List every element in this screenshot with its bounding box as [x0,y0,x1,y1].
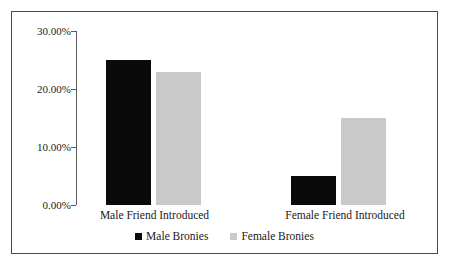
legend-swatch-black-icon [135,233,142,240]
chart-figure: 30.00% 20.00% 10.00% 0.00% Male Friend I… [11,11,438,254]
y-axis-line [76,31,77,205]
legend-label-female-bronies: Female Bronies [241,230,314,242]
bar-male-bronies-female-friend [291,176,336,205]
chart-legend: Male Bronies Female Bronies [12,230,437,242]
bar-female-bronies-female-friend [341,118,386,205]
y-tick-20 [71,89,76,90]
y-tick-0 [71,205,76,206]
y-axis-label-20: 20.00% [15,84,71,95]
bar-female-bronies-male-friend [156,72,201,205]
bar-male-bronies-male-friend [106,60,151,205]
plot-area: 30.00% 20.00% 10.00% 0.00% Male Friend I… [12,12,437,253]
y-tick-30 [71,31,76,32]
legend-label-male-bronies: Male Bronies [146,230,208,242]
legend-swatch-gray-icon [230,233,237,240]
legend-item-female-bronies: Female Bronies [230,230,314,242]
legend-item-male-bronies: Male Bronies [135,230,208,242]
y-axis-label-0: 0.00% [15,200,71,211]
y-tick-10 [71,147,76,148]
x-axis-label-male-friend: Male Friend Introduced [72,209,237,221]
x-axis-label-female-friend: Female Friend Introduced [256,209,434,221]
y-axis-label-10: 10.00% [15,142,71,153]
y-axis-label-30: 30.00% [15,26,71,37]
